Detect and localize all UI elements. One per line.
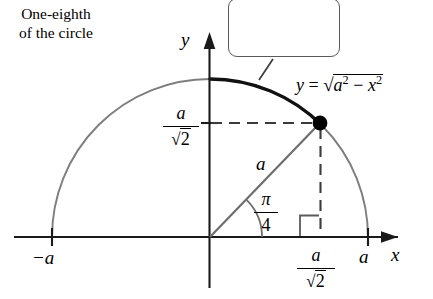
callout-leader-line (259, 59, 273, 80)
callout-line-2: of the circle (19, 24, 93, 41)
angle-numerator: π (254, 189, 278, 211)
neg-a-tick-label: −a (32, 248, 54, 267)
x-value-radical-body: 2 (315, 270, 326, 291)
x-value-numerator: a (297, 245, 335, 267)
y-axis-arrowhead (204, 32, 216, 49)
y-value-fraction-label: a √2 (163, 103, 199, 150)
radius-length-label: a (256, 154, 266, 173)
equation-equals: = (309, 75, 319, 95)
x-axis-arrowhead (381, 231, 398, 243)
equation-lhs: y (296, 75, 304, 95)
math-figure-one-eighth-circle: One-eighth of the circle y x y = √a2 − x… (0, 0, 433, 299)
equation-base-x: x (368, 75, 376, 95)
radical-body: a2 − x2 (333, 74, 383, 95)
callout-line-1: One-eighth (21, 5, 91, 22)
callout-text: One-eighth of the circle (0, 5, 112, 43)
y-value-denominator: √2 (163, 128, 199, 150)
y-axis-label: y (181, 30, 189, 49)
equation-exp-x: 2 (376, 73, 382, 87)
equation-exp-a: 2 (343, 73, 349, 87)
x-axis-label: x (391, 245, 399, 264)
y-value-radical-body: 2 (180, 128, 191, 149)
angle-denominator: 4 (254, 214, 278, 236)
pos-a-tick-label: a (359, 247, 369, 266)
right-angle-marker (300, 216, 319, 237)
equation-radical: √a2 − x2 (323, 74, 383, 94)
equation-minus: − (353, 75, 363, 95)
equation-base-a: a (334, 75, 343, 95)
marked-point (313, 116, 328, 131)
y-value-fraction-bar (163, 126, 199, 127)
angle-fraction-label: π 4 (254, 189, 278, 236)
y-value-numerator: a (163, 103, 199, 125)
x-value-fraction-bar (297, 268, 335, 269)
callout-box (228, 0, 340, 57)
x-value-denominator: √2 (297, 270, 335, 292)
x-value-fraction-label: a √2 (297, 245, 335, 292)
angle-fraction-bar (254, 212, 278, 213)
curve-equation-label: y = √a2 − x2 (296, 74, 383, 94)
